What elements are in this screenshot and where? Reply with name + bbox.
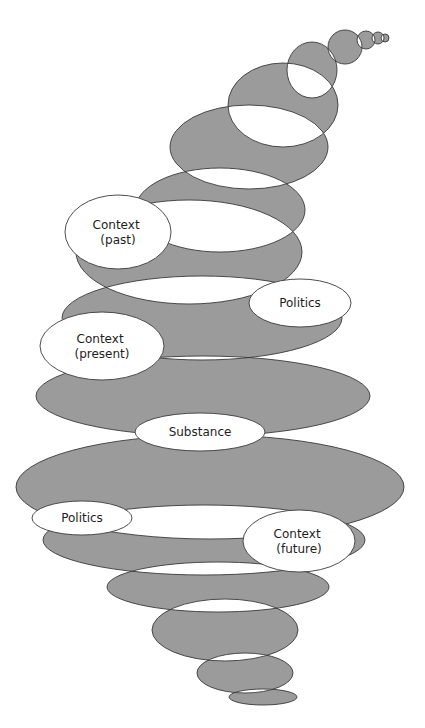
label-context-present: Context (present) [40, 312, 164, 380]
label-substance: Substance [135, 413, 265, 451]
label-text-politics-bottom: Politics [61, 511, 103, 525]
spiral-diagram: Context (past) Politics Context (present… [0, 0, 425, 728]
label-text-context-present: Context (present) [75, 332, 130, 361]
label-context-future: Context (future) [243, 510, 355, 572]
label-text-substance: Substance [169, 425, 232, 439]
label-politics-bottom: Politics [32, 501, 132, 535]
label-politics-top: Politics [249, 279, 351, 327]
label-context-past: Context (past) [65, 195, 171, 269]
label-text-politics-top: Politics [279, 296, 321, 310]
label-text-context-future: Context (future) [274, 527, 325, 556]
